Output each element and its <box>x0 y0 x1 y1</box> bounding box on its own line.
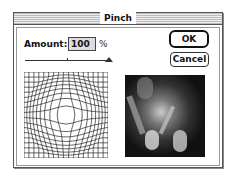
amount-label: Amount: <box>24 39 67 49</box>
grid-distortion-preview <box>24 72 108 158</box>
tiger-image-preview[interactable] <box>125 75 205 157</box>
title-bar[interactable]: Pinch <box>14 13 222 25</box>
slider-center-tick <box>67 58 68 61</box>
amount-slider-thumb[interactable] <box>105 57 113 62</box>
percent-unit-label: % <box>99 39 108 49</box>
ok-button[interactable]: OK <box>169 30 209 48</box>
pinch-dialog: Pinch Amount: 100 % OK Cancel <box>13 12 223 168</box>
cancel-button[interactable]: Cancel <box>170 52 209 67</box>
dialog-title: Pinch <box>100 12 136 24</box>
amount-input[interactable]: 100 <box>68 37 96 51</box>
